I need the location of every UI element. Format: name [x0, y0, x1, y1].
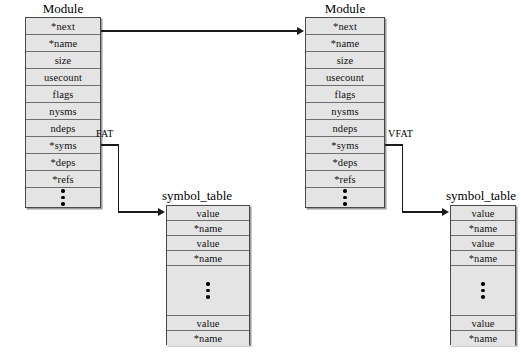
ellipsis-dot	[343, 189, 347, 193]
edge-fat-segment-v	[118, 144, 120, 212]
symbol-table-left-ellipsis	[167, 266, 249, 316]
edge-vfat-segment-h1	[385, 144, 403, 146]
ellipsis-dot	[481, 289, 485, 293]
symbol-table-left-row-value-2: value	[167, 236, 249, 251]
module-right-field-syms: *syms	[306, 137, 384, 154]
edge-vfat-segment-h2	[402, 211, 443, 213]
ellipsis-dot	[481, 295, 485, 299]
edge-vfat-label: VFAT	[388, 128, 413, 139]
symbol-table-right-row-name-last: *name	[451, 331, 515, 346]
symbol-table-right-row-value-2: value	[451, 236, 515, 251]
ellipsis-dot	[206, 282, 210, 286]
symbol-table-left-row-name-2: *name	[167, 251, 249, 266]
module-right-field-name: *name	[306, 35, 384, 52]
module-right-field-nysms: nysms	[306, 103, 384, 120]
ellipsis-dot	[343, 196, 347, 200]
module-symbol-table-diagram: Module *next *name size usecount flags n…	[0, 0, 521, 357]
module-left-ellipsis	[26, 188, 100, 207]
ellipsis-dot	[343, 202, 347, 206]
ellipsis-dot	[206, 289, 210, 293]
module-left-field-name: *name	[26, 35, 100, 52]
ellipsis-dot	[61, 189, 65, 193]
module-right-title: Module	[305, 2, 385, 16]
symbol-table-right-row-name-1: *name	[451, 221, 515, 236]
symbol-table-left-row-name-last: *name	[167, 331, 249, 346]
edge-vfat-arrowhead	[442, 208, 449, 216]
symbol-table-left-row-value-last: value	[167, 316, 249, 331]
symbol-table-left-row-value-1: value	[167, 206, 249, 221]
module-right-field-next: *next	[306, 18, 384, 35]
module-left-field-deps: *deps	[26, 154, 100, 171]
module-left-title: Module	[25, 2, 101, 16]
module-left-field-size: size	[26, 52, 100, 69]
symbol-table-left-title: symbol_table	[144, 189, 250, 203]
symbol-table-left: value *name value *name value *name	[166, 205, 250, 345]
symbol-table-right-row-name-2: *name	[451, 251, 515, 266]
symbol-table-right: value *name value *name value *name	[450, 205, 516, 345]
module-left-field-syms: *syms	[26, 137, 100, 154]
ellipsis-dot	[61, 202, 65, 206]
edge-fat-segment-h1	[101, 144, 119, 146]
edge-fat-arrowhead	[158, 208, 165, 216]
module-left-field-refs: *refs	[26, 171, 100, 188]
edge-next-line	[101, 30, 297, 32]
ellipsis-dot	[206, 295, 210, 299]
edge-fat-segment-h2	[118, 211, 159, 213]
edge-next-arrowhead	[297, 27, 304, 35]
module-left-field-nysms: nysms	[26, 103, 100, 120]
symbol-table-right-ellipsis	[451, 266, 515, 316]
edge-vfat-segment-v	[402, 144, 404, 212]
ellipsis-dot	[61, 196, 65, 200]
module-right-ellipsis	[306, 188, 384, 207]
module-left-field-next: *next	[26, 18, 100, 35]
symbol-table-right-row-value-last: value	[451, 316, 515, 331]
symbol-table-left-row-name-1: *name	[167, 221, 249, 236]
module-right-field-deps: *deps	[306, 154, 384, 171]
symbol-table-right-row-value-1: value	[451, 206, 515, 221]
module-right-field-refs: *refs	[306, 171, 384, 188]
module-right-field-size: size	[306, 52, 384, 69]
edge-fat-label: FAT	[96, 128, 114, 139]
module-left-field-usecount: usecount	[26, 69, 100, 86]
module-right-field-flags: flags	[306, 86, 384, 103]
module-left-field-flags: flags	[26, 86, 100, 103]
module-left: *next *name size usecount flags nysms nd…	[25, 17, 101, 208]
symbol-table-right-title: symbol_table	[428, 189, 521, 203]
module-right-field-ndeps: ndeps	[306, 120, 384, 137]
module-right: *next *name size usecount flags nysms nd…	[305, 17, 385, 208]
module-right-field-usecount: usecount	[306, 69, 384, 86]
ellipsis-dot	[481, 282, 485, 286]
module-left-field-ndeps: ndeps	[26, 120, 100, 137]
